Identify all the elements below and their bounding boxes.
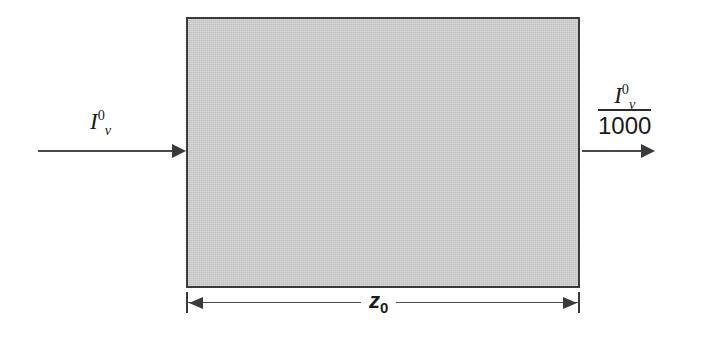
dimension-symbol: z bbox=[369, 288, 380, 313]
outgoing-numerator-subscript: ν bbox=[629, 96, 635, 112]
incoming-subscript: ν bbox=[105, 122, 111, 138]
dimension-label: z0 bbox=[361, 288, 396, 314]
outgoing-intensity-label: I0ν 1000 bbox=[598, 84, 651, 138]
absorbing-slab bbox=[186, 17, 580, 288]
incoming-ray-line bbox=[38, 150, 176, 152]
incoming-ray-arrowhead-icon bbox=[172, 144, 186, 158]
fraction-denominator: 1000 bbox=[598, 111, 651, 138]
dimension-subscript: 0 bbox=[380, 299, 388, 316]
fraction-numerator: I0ν bbox=[598, 84, 651, 111]
dimension-tick-left bbox=[186, 292, 188, 313]
dimension-arrowhead-left-icon bbox=[189, 297, 203, 309]
outgoing-numerator-symbol: I bbox=[614, 83, 622, 108]
incoming-intensity-label: I0ν bbox=[90, 110, 111, 133]
radiative-transfer-figure: I0ν I0ν 1000 z0 bbox=[0, 0, 708, 337]
outgoing-ray-arrowhead-icon bbox=[641, 144, 655, 158]
outgoing-numerator-superscript: 0 bbox=[622, 81, 629, 97]
dimension-tick-right bbox=[578, 292, 580, 313]
incoming-superscript: 0 bbox=[98, 107, 105, 123]
dimension-arrowhead-right-icon bbox=[563, 297, 577, 309]
outgoing-ray-line bbox=[582, 150, 644, 152]
incoming-symbol: I bbox=[90, 109, 98, 134]
